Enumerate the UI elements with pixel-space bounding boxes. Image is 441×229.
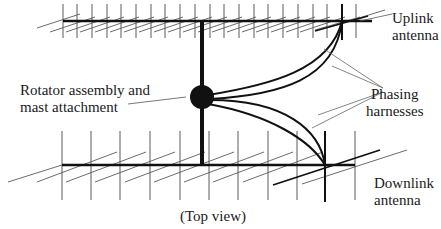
phasing-harness-upper-inner: [210, 21, 342, 99]
downlink-diagonal-elements: [8, 150, 407, 184]
diagram-caption: (Top view): [180, 208, 246, 225]
rotator-assembly-label: Rotator assembly and mast attachment: [20, 82, 150, 116]
rotator-assembly: [190, 85, 214, 109]
antenna-array-diagram: Uplink antenna Rotator assembly and mast…: [0, 0, 441, 229]
downlink-antenna-label: Downlink antenna: [374, 175, 434, 209]
phasing-harness-lower-inner: [208, 104, 325, 165]
downlink-feed-element: [273, 150, 380, 185]
downlink-antenna: [8, 131, 407, 202]
uplink-antenna-label: Uplink antenna: [392, 10, 439, 44]
phasing-harnesses: [208, 21, 342, 165]
phasing-harnesses-label: Phasing harnesses: [366, 86, 423, 120]
